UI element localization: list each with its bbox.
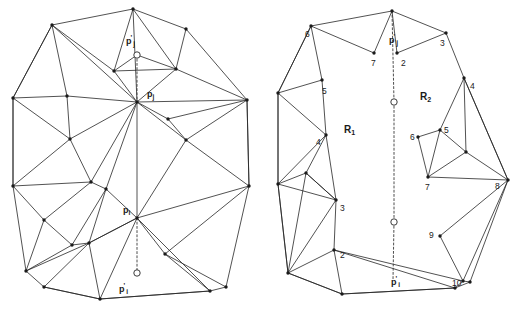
label-subscript: j [153,93,155,100]
left-edge [247,100,249,186]
v-7-top-label: 7 [371,59,376,68]
right-edge [342,288,455,294]
left-vertex [166,117,169,120]
right-vertex [286,271,289,274]
right-edge [288,200,336,273]
right-vertex [324,133,327,136]
left-vertex [184,138,187,141]
left-vertex [11,184,14,187]
left-edge [26,245,72,271]
left-vertex [87,241,90,244]
right-vertex [468,280,471,283]
left-edge [89,218,137,243]
left-vertex [104,187,107,190]
left-edge [13,25,52,98]
right-edge [278,80,322,93]
region-subscript: 1 [351,129,355,136]
right-edge [278,93,326,135]
left-edge [70,139,91,182]
right-edge [428,177,508,180]
left-edge [186,140,249,186]
left-edge [114,55,137,71]
left-edge [168,119,186,140]
label-subscript: i [129,209,131,216]
left-vertex [135,216,138,219]
left-edge [137,102,168,119]
right-edge [440,78,464,130]
left-edge [44,220,72,245]
label-subscript: j [396,39,398,46]
left-edge [13,139,70,186]
v-8-inner-label: 8 [495,182,500,191]
right-vertex [390,9,393,12]
open-node-upper [391,99,397,105]
right-edge [311,26,322,80]
left-edge [13,98,70,139]
open-node-lower [391,219,397,225]
left-edge [114,69,176,71]
right-edge [334,200,336,250]
left-edge [91,182,106,189]
left-vertex [98,297,101,300]
right-edge [326,135,336,200]
left-edge [186,29,247,100]
left-edge [226,186,249,287]
label-base: p [147,89,153,99]
label-subscript: i [126,288,128,295]
region-r1-label: R1 [344,125,355,135]
left-edge [137,55,176,69]
left-vertex [42,218,45,221]
open-node-pi-prime [134,270,140,276]
left-vertex [50,23,53,26]
right-vertex [304,171,307,174]
left-edge [26,243,89,271]
left-edge [168,100,247,119]
left-edge [137,218,210,291]
right-edge [418,137,428,177]
v-3-top-label: 3 [440,39,445,48]
right-vertex [309,24,312,27]
left-edge [67,96,137,102]
right-edge [288,173,306,273]
left-edge [165,186,249,254]
right-edge [392,11,446,33]
right-vertex [334,198,337,201]
left-edge [13,186,26,271]
v-5-left-label: 5 [322,87,327,96]
v-5-inner-label: 5 [444,126,449,135]
left-edge [133,9,186,29]
left-edge [165,254,210,291]
open-node-pj-prime [134,52,140,58]
left-edge [44,182,91,220]
right-edge [440,236,463,281]
right-vertex [276,182,279,185]
left-edge [44,243,89,287]
left-edge [13,96,67,98]
left-vertex [245,98,248,101]
prime-mark: ' [124,282,126,289]
v-10-label: 10 [452,279,461,288]
left-vertex [89,180,92,183]
right-vertex [506,178,509,181]
left-edge [137,100,247,102]
left-vertex [11,96,14,99]
left-edge [176,29,186,69]
left-vertex [224,285,227,288]
left-edge [106,102,137,189]
region-subscript: 2 [427,96,431,103]
pj-prime-right-label: p'j [389,36,398,45]
right-edge [278,184,288,273]
left-edge [52,9,133,25]
left-edge [91,102,137,182]
right-edge [464,78,466,152]
left-edge [89,189,106,243]
left-vertex [24,269,27,272]
left-vertex [42,285,45,288]
right-vertex [332,248,335,251]
left-edge [106,189,137,218]
right-vertex [372,51,375,54]
right-edge [463,180,508,281]
left-edge [67,96,70,139]
right-vertex [462,76,465,79]
v-7-inner-label: 7 [425,183,430,192]
